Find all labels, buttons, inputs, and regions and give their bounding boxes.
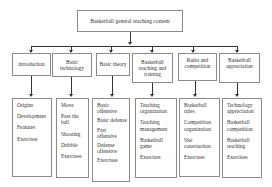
item: Exercises: [97, 157, 127, 163]
items-appreciation: Technology appreciation Basketball compe…: [222, 98, 262, 178]
category-teaching-training: Basketball teaching and training: [132, 53, 173, 83]
connector-sub-5: [195, 81, 196, 94]
item: Basketball game: [140, 137, 173, 149]
category-basic-technology: Basic technology: [52, 53, 92, 77]
connector-bus: [31, 46, 238, 47]
item: Origins: [17, 102, 48, 108]
root-node: Basketball general teaching content: [77, 10, 183, 32]
category-label: introduction: [18, 61, 44, 67]
connector-sub-1: [31, 76, 32, 94]
item: Development: [17, 113, 48, 119]
category-label: Basketball teaching and training: [135, 59, 170, 78]
connector-sub-3: [112, 76, 113, 94]
item: Move: [61, 102, 85, 108]
arrow-head: [150, 94, 154, 97]
item: Dribble: [61, 142, 85, 148]
item: Basic defense: [97, 117, 127, 123]
item: Exercises: [227, 154, 258, 160]
item: Basketball competition: [227, 119, 258, 131]
arrow-head: [128, 42, 132, 45]
connector-sub-2: [71, 77, 72, 94]
arrow-head: [193, 94, 197, 97]
item: Fast offensive: [97, 127, 127, 139]
item: Basketball teaching: [227, 137, 258, 149]
category-introduction: introduction: [12, 53, 51, 76]
items-basic-theory: Basic offensive Basic defense Fast offen…: [92, 98, 130, 182]
items-basic-technology: Move Pass the ball Shooting Dribble Exer…: [56, 98, 89, 178]
item: Site construction: [184, 137, 216, 149]
item: Features: [17, 124, 48, 130]
connector-sub-6: [237, 83, 238, 94]
category-label: Basketball appreciation: [222, 57, 257, 69]
item: Shooting: [61, 131, 85, 137]
item: Technology appreciation: [227, 102, 258, 114]
item: Basketball rules: [184, 102, 216, 114]
item: Competition organization: [184, 119, 216, 131]
category-basic-theory: Basic theory: [96, 53, 130, 76]
item: Exercises: [17, 136, 48, 142]
root-node-label: Basketball general teaching content: [90, 18, 170, 24]
arrow-head: [69, 94, 73, 97]
arrow-head: [235, 94, 239, 97]
arrow-head: [110, 94, 114, 97]
item: Basic offensive: [97, 102, 127, 114]
item: Exercises: [140, 154, 173, 160]
item: Exercises: [61, 153, 85, 159]
item: Teaching management: [140, 119, 173, 131]
items-introduction: Origins Development Features Exercises: [12, 98, 52, 177]
category-appreciation: Basketball appreciation: [219, 53, 260, 83]
items-rules-competition: Basketball rules Competition organizatio…: [179, 98, 220, 177]
item: Pass the ball: [61, 113, 85, 125]
items-teaching-training: Teaching organization Teaching managemen…: [135, 98, 177, 178]
item: Teaching organization: [140, 102, 173, 114]
category-label: Rules and competition: [181, 57, 214, 69]
category-label: Basic theory: [99, 61, 126, 67]
item: Exercises: [184, 154, 216, 160]
category-rules-competition: Rules and competition: [178, 53, 217, 81]
item: Defense offensive: [97, 142, 127, 154]
category-label: Basic technology: [55, 59, 89, 71]
arrow-head: [29, 94, 33, 97]
connector-sub-4: [152, 83, 153, 94]
